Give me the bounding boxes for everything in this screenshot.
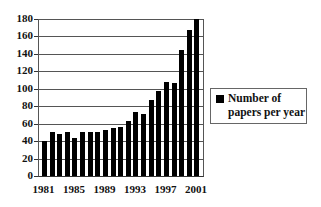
y-tick <box>34 124 38 125</box>
y-tick <box>34 54 38 55</box>
y-tick-label: 120 <box>0 65 33 76</box>
bar-1981 <box>42 141 47 176</box>
bar-1991 <box>118 127 123 176</box>
y-tick-label: 180 <box>0 13 33 24</box>
legend-swatch-icon <box>216 95 224 103</box>
y-tick <box>34 71 38 72</box>
legend: Number of papers per year <box>210 88 307 124</box>
y-tick-label: 0 <box>0 170 33 181</box>
y-tick-label: 60 <box>0 118 33 129</box>
x-tick-label: 2001 <box>176 183 216 195</box>
bar-1997 <box>164 82 169 176</box>
bar-2001 <box>194 19 199 176</box>
bar-1998 <box>172 83 177 176</box>
bar-2000 <box>187 30 192 176</box>
bar-1996 <box>156 91 161 176</box>
bar-1985 <box>72 138 77 176</box>
bar-1994 <box>141 114 146 176</box>
y-tick <box>34 159 38 160</box>
y-tick <box>34 176 38 177</box>
y-tick-label: 80 <box>0 100 33 111</box>
gridline <box>39 36 203 37</box>
y-tick <box>34 141 38 142</box>
gridline <box>39 19 203 20</box>
y-tick-label: 160 <box>0 30 33 41</box>
y-tick <box>34 19 38 20</box>
bar-1999 <box>179 50 184 176</box>
bar-1984 <box>65 132 70 176</box>
legend-label: Number of papers per year <box>228 91 305 119</box>
bar-1993 <box>133 112 138 176</box>
bar-1989 <box>103 130 108 176</box>
bar-1988 <box>95 132 100 176</box>
bar-1990 <box>111 128 116 176</box>
y-tick-label: 100 <box>0 83 33 94</box>
y-tick <box>34 106 38 107</box>
bar-1986 <box>80 132 85 176</box>
plot-area <box>38 19 204 177</box>
legend-label-line1: Number of <box>228 91 305 105</box>
bar-1995 <box>149 100 154 176</box>
legend-label-line2: papers per year <box>228 105 305 119</box>
y-tick-label: 20 <box>0 153 33 164</box>
y-tick <box>34 89 38 90</box>
bar-1992 <box>126 121 131 176</box>
y-tick-label: 140 <box>0 48 33 59</box>
bar-1983 <box>57 134 62 176</box>
y-tick <box>34 36 38 37</box>
bar-1987 <box>88 132 93 176</box>
y-tick-label: 40 <box>0 135 33 146</box>
bar-1982 <box>50 132 55 176</box>
